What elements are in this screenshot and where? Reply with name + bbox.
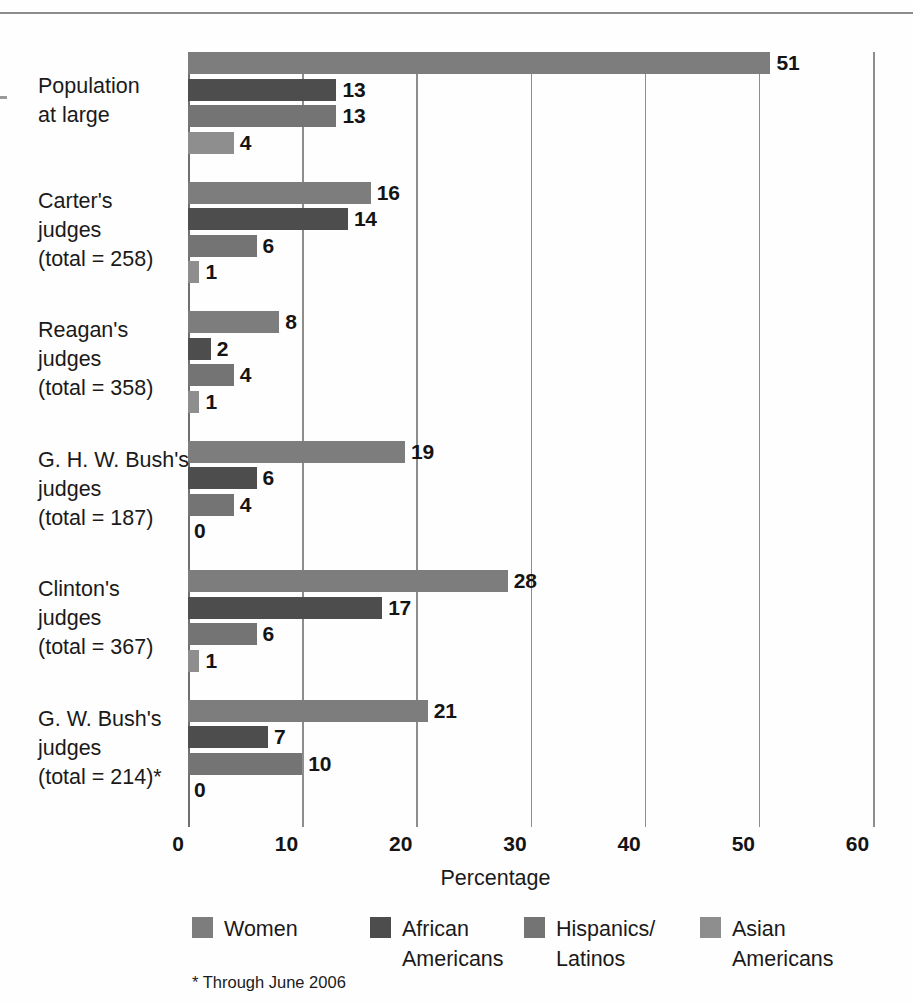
bar [188,338,211,360]
bar-value-label: 4 [240,364,251,386]
category-label-line: (total = 258) [38,245,183,274]
bar-value-label: 17 [388,597,411,619]
bar [188,132,234,154]
bar-value-label: 7 [274,726,285,748]
legend-label: AfricanAmericans [402,914,504,974]
bar-value-label: 0 [194,520,205,542]
left-edge-mark [0,96,7,99]
bar-value-label: 1 [205,650,216,672]
gridline-60 [873,52,874,827]
bar [188,311,279,333]
legend-label-line: Americans [402,944,504,974]
legend-label-line: Hispanics/ [556,914,655,944]
gridline-30 [531,52,532,827]
category-label-line: (total = 214)* [38,763,183,792]
category-label: Clinton'sjudges(total = 367) [38,575,183,662]
bar-value-label: 13 [342,105,365,127]
bar-value-label: 21 [434,700,457,722]
legend-label-line: Americans [732,944,834,974]
bar-value-label: 19 [411,441,434,463]
bar [188,650,199,672]
legend-swatch-icon [192,917,213,938]
bar [188,597,382,619]
legend-label-line: Latinos [556,944,655,974]
bar [188,79,336,101]
bar [188,105,336,127]
category-label: Reagan'sjudges(total = 358) [38,316,183,403]
category-label-line: G. W. Bush's [38,705,183,734]
category-label: G. W. Bush'sjudges(total = 214)* [38,705,183,792]
bar [188,261,199,283]
bar-value-label: 2 [217,338,228,360]
bar [188,467,257,489]
bar-value-label: 6 [263,467,274,489]
category-label-line: Carter's [38,187,183,216]
bar-value-label: 1 [205,261,216,283]
bar-value-label: 8 [285,311,296,333]
legend-label: Hispanics/Latinos [556,914,655,974]
category-label-line: Clinton's [38,575,183,604]
x-tick-label: 10 [258,832,298,856]
bar [188,726,268,748]
top-divider-rule [0,12,913,14]
bar-value-label: 6 [263,235,274,257]
gridline-40 [645,52,646,827]
bar-value-label: 14 [354,208,377,230]
x-tick-label: 30 [487,832,527,856]
bar [188,391,199,413]
bar [188,623,257,645]
legend-swatch-icon [700,917,721,938]
bar [188,208,348,230]
category-label-line: (total = 187) [38,504,183,533]
x-tick-label: 40 [601,832,641,856]
footnote: * Through June 2006 [192,972,346,992]
category-label-line: at large [38,101,183,130]
category-label: G. H. W. Bush'sjudges(total = 187) [38,446,183,533]
x-axis-title: Percentage [0,866,913,891]
gridline-50 [759,52,760,827]
x-tick-label: 60 [829,832,869,856]
x-tick-label: 50 [715,832,755,856]
legend-swatch-icon [370,917,391,938]
bar [188,494,234,516]
legend-label: Women [224,914,298,944]
bar [188,700,428,722]
category-label-line: (total = 358) [38,374,183,403]
category-label: Populationat large [38,72,183,130]
x-tick-label: 0 [144,832,184,856]
category-label-line: Population [38,72,183,101]
bar [188,570,508,592]
bar [188,235,257,257]
legend-label-line: Women [224,914,298,944]
category-label-line: judges [38,216,183,245]
x-axis-title-text: Percentage [441,866,551,891]
category-label: Carter'sjudges(total = 258) [38,187,183,274]
x-tick-label: 20 [372,832,412,856]
legend-label-line: Asian [732,914,834,944]
category-label-line: judges [38,604,183,633]
bar-value-label: 51 [776,52,799,74]
bar [188,182,371,204]
bar-value-label: 28 [514,570,537,592]
legend-label-line: African [402,914,504,944]
legend-swatch-icon [524,917,545,938]
bar-value-label: 4 [240,494,251,516]
bar-value-label: 13 [342,79,365,101]
bar [188,364,234,386]
category-label-line: (total = 367) [38,633,183,662]
legend-label: AsianAmericans [732,914,834,974]
bar [188,441,405,463]
bar [188,52,770,74]
bar-value-label: 0 [194,779,205,801]
figure-canvas: 5113134161461824119640281761217100 Popul… [0,0,913,1004]
category-label-line: judges [38,475,183,504]
category-label-line: judges [38,734,183,763]
category-label-line: Reagan's [38,316,183,345]
bar-value-label: 6 [263,623,274,645]
bar-value-label: 1 [205,391,216,413]
bar-value-label: 10 [308,753,331,775]
bar-value-label: 4 [240,132,251,154]
category-label-line: G. H. W. Bush's [38,446,183,475]
bar-value-label: 16 [377,182,400,204]
category-label-line: judges [38,345,183,374]
